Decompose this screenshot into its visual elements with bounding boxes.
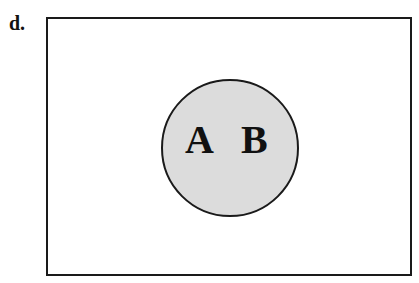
set-circle-a-b — [161, 79, 299, 217]
panel-label: d. — [9, 13, 25, 33]
set-label-b: B — [241, 120, 268, 160]
set-label-a: A — [185, 120, 214, 160]
